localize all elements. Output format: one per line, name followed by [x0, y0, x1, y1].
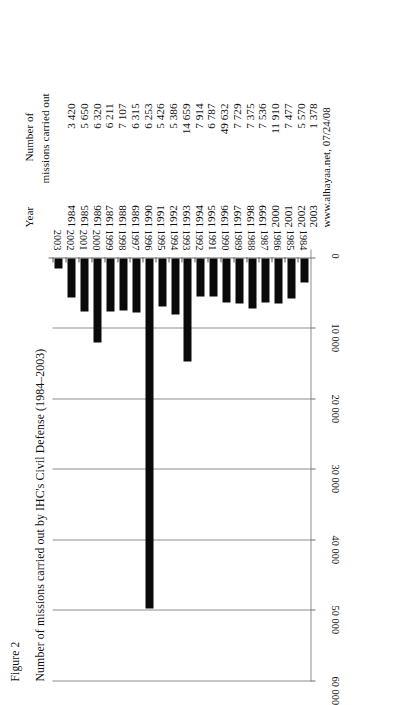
table-cell-value: 6 320 [90, 103, 102, 167]
chart-category-label: 1984 [297, 229, 308, 250]
chart-bar [235, 258, 243, 303]
source-attribution: www.alhayaa.net, 07/24/08 [319, 107, 331, 227]
chart-bar [67, 258, 75, 297]
chart-category-tick [181, 257, 182, 262]
chart-bar [183, 258, 191, 361]
chart-plot-area: 2003200220012000199919981997199619951994… [52, 249, 310, 681]
chart-value-tick [310, 680, 315, 681]
chart-category-tick [129, 257, 130, 262]
chart-bar [209, 258, 217, 296]
chart-category-label: 1993 [180, 229, 191, 250]
chart-value-tick-label: 20 000 [329, 394, 340, 423]
table-cell-value: 7 536 [255, 103, 267, 167]
chart-value-tick [310, 257, 315, 258]
chart-category-tick [220, 257, 221, 262]
chart-category-label: 1986 [271, 229, 282, 250]
chart-category-tick [246, 257, 247, 262]
chart-category-axis [310, 249, 311, 681]
chart-value-tick-label: 0 [329, 253, 340, 258]
table-cell-year: 1992 [166, 205, 178, 227]
chart-bar [145, 258, 153, 608]
table-cell-year: 1990 [141, 205, 153, 227]
table-cell-value: 7 477 [281, 103, 293, 167]
chart-bar [222, 258, 230, 302]
chart-value-tick [310, 610, 315, 611]
chart-category-label: 2001 [77, 229, 88, 250]
chart-bar [158, 258, 166, 306]
table-cell-year: 1984 [64, 205, 76, 227]
chart-category-tick [104, 257, 105, 262]
chart-category-tick [297, 257, 298, 262]
chart-value-tick [310, 539, 315, 540]
chart-category-tick [78, 257, 79, 262]
table-header-value-line2: missions carried out [38, 93, 50, 183]
chart-bar [248, 258, 256, 308]
chart-gridline [52, 328, 310, 329]
table-cell-year: 1993 [179, 205, 191, 227]
table-cell-year: 2001 [281, 205, 293, 227]
chart-gridline [52, 680, 310, 681]
chart-bar [54, 258, 62, 268]
chart-category-label: 1997 [129, 229, 140, 250]
chart-category-tick [258, 257, 259, 262]
chart-category-tick [233, 257, 234, 262]
chart-bar [287, 258, 295, 298]
figure-label: Figure 2 [8, 641, 20, 681]
chart-value-tick-label: 60 000 [329, 676, 340, 705]
table-cell-value: 7 375 [243, 103, 255, 167]
table-cell-year: 1985 [77, 205, 89, 227]
chart-category-label: 1992 [193, 229, 204, 250]
table-cell-year: 2002 [294, 205, 306, 227]
chart-category-label: 1988 [245, 229, 256, 250]
chart-category-label: 1987 [258, 229, 269, 250]
table-cell-value: 5 426 [153, 103, 165, 167]
chart-value-tick-label: 10 000 [329, 324, 340, 353]
chart-value-tick-label: 40 000 [329, 535, 340, 564]
chart-category-label: 1991 [206, 229, 217, 250]
chart-category-tick [117, 257, 118, 262]
chart-bar [93, 258, 101, 342]
chart-category-label: 1990 [219, 229, 230, 250]
table-cell-value: 7 914 [192, 103, 204, 167]
table-cell-value: 6 315 [128, 103, 140, 167]
table-cell-year: 2003 [306, 205, 318, 227]
table-header-year: Year [22, 206, 34, 227]
chart-category-tick [284, 257, 285, 262]
table-cell-year: 1996 [217, 205, 229, 227]
chart-value-tick-label: 50 000 [329, 606, 340, 635]
table-cell-value: 7 107 [115, 103, 127, 167]
chart-gridline [52, 610, 310, 611]
table-cell-year: 1988 [115, 205, 127, 227]
table-cell-year: 1991 [153, 205, 165, 227]
chart-category-label: 1995 [155, 229, 166, 250]
chart-category-label: 1998 [116, 229, 127, 250]
chart-bar [132, 258, 140, 312]
chart-category-tick [52, 257, 53, 262]
table-cell-value: 5 386 [166, 103, 178, 167]
chart-category-tick [155, 257, 156, 262]
chart-bar [119, 258, 127, 310]
chart-value-tick [310, 328, 315, 329]
table-cell-year: 1999 [255, 205, 267, 227]
table-cell-value: 49 632 [217, 103, 229, 167]
chart-category-label: 1985 [284, 229, 295, 250]
chart-bar [274, 258, 282, 303]
table-cell-value: 6 787 [204, 103, 216, 167]
figure-title: Number of missions carried out by IHC's … [32, 348, 47, 681]
table-cell-value: 7 729 [230, 103, 242, 167]
chart-value-tick [310, 469, 315, 470]
chart-gridline [52, 469, 310, 470]
chart-category-tick [207, 257, 208, 262]
chart-gridline [52, 398, 310, 399]
chart-category-tick [65, 257, 66, 262]
table-cell-value: 14 659 [179, 103, 191, 167]
chart-category-label: 2000 [90, 229, 101, 250]
table-header-value-line1: Number of [22, 112, 34, 161]
chart-category-label: 2002 [64, 229, 75, 250]
chart-category-label: 1989 [232, 229, 243, 250]
chart-bar [261, 258, 269, 302]
table-cell-value: 11 910 [268, 103, 280, 167]
chart-bar [171, 258, 179, 314]
